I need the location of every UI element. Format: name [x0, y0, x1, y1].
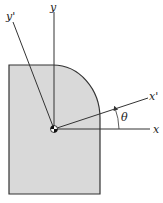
- y-prime-axis-label: y': [5, 10, 15, 23]
- x-prime-axis-label: x': [149, 90, 158, 103]
- centroid-icon: [51, 126, 58, 133]
- angle-label: θ: [121, 111, 128, 124]
- y-axis-label: y: [49, 1, 57, 14]
- angle-arc: [115, 108, 119, 129]
- x-axis-label: x: [153, 123, 160, 136]
- diagram-canvas: y x x' y' θ: [0, 0, 163, 203]
